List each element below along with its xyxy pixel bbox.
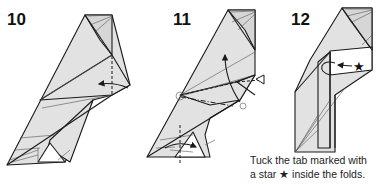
step-10-figure xyxy=(7,15,130,165)
svg-text:★: ★ xyxy=(353,59,365,74)
star-icon: ★ xyxy=(279,168,289,180)
step-12-figure: ★ xyxy=(295,8,372,152)
step-11-figure xyxy=(147,10,264,165)
caption-line-2: a star ★ inside the folds. xyxy=(250,167,388,181)
instruction-caption: Tuck the tab marked with a star ★ inside… xyxy=(250,153,388,181)
caption-suffix: inside the folds. xyxy=(289,168,365,180)
caption-line-1: Tuck the tab marked with xyxy=(250,153,388,167)
caption-prefix: a star xyxy=(250,168,279,180)
